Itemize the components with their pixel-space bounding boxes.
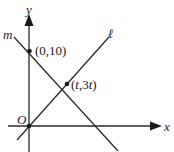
y-intercept-point	[27, 49, 32, 54]
coordinate-diagram: x y ℓ m O (0,10) (t,3t)	[0, 0, 174, 152]
x-axis-arrow-icon	[150, 122, 162, 131]
line-l-label: ℓ	[108, 26, 114, 41]
intersection-label: (t,3t)	[71, 77, 97, 92]
y-intercept-label: (0,10)	[35, 43, 66, 58]
line-m-label: m	[3, 27, 12, 42]
origin-label: O	[17, 112, 27, 127]
origin-point	[27, 124, 32, 129]
intersection-point	[65, 82, 70, 87]
x-axis-label: x	[163, 119, 170, 134]
y-axis-label: y	[24, 2, 32, 17]
